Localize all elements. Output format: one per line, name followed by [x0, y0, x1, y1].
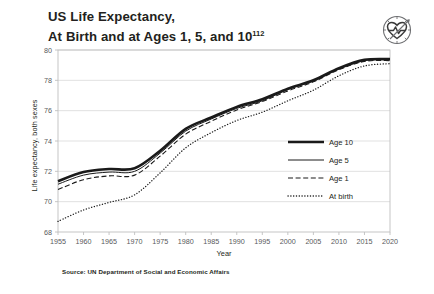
x-tick-label: 1965	[101, 237, 117, 246]
x-tick-label: 1960	[76, 237, 92, 246]
y-tick-label: 76	[44, 106, 52, 115]
legend-label-at-birth: At birth	[329, 192, 353, 201]
x-tick-label: 1985	[203, 237, 219, 246]
x-axis-title: Year	[58, 249, 390, 258]
y-axis-title: Life expectancy, both sexes	[30, 66, 39, 226]
x-tick-label: 2015	[356, 237, 372, 246]
x-tick-label: 1975	[152, 237, 168, 246]
legend-label-age-1: Age 1	[329, 174, 349, 183]
y-tick-label: 72	[44, 167, 52, 176]
x-tick-label: 1980	[178, 237, 194, 246]
x-tick-label: 2000	[280, 237, 296, 246]
chart-figure: US Life Expectancy, At Birth and at Ages…	[0, 0, 434, 294]
x-tick-label: 1990	[229, 237, 245, 246]
legend-label-age-10: Age 10	[329, 138, 353, 147]
x-tick-label: 2005	[305, 237, 321, 246]
y-tick-label: 74	[44, 137, 52, 146]
y-tick-label: 78	[44, 76, 52, 85]
x-tick-label: 1970	[127, 237, 143, 246]
y-tick-label: 70	[44, 197, 52, 206]
y-tick-label: 68	[44, 228, 52, 237]
legend-label-age-5: Age 5	[329, 156, 349, 165]
y-tick-label: 80	[44, 46, 52, 55]
source-note: Source: UN Department of Social and Econ…	[62, 268, 230, 275]
x-tick-label: 2020	[382, 237, 398, 246]
x-tick-label: 1955	[50, 237, 66, 246]
x-tick-label: 1995	[254, 237, 270, 246]
x-tick-label: 2010	[331, 237, 347, 246]
